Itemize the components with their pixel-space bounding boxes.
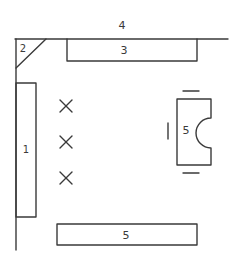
bottom-rectangle-5: 5 xyxy=(57,224,197,245)
element-label-2: 2 xyxy=(20,43,26,54)
x-mark-icon xyxy=(60,172,72,184)
corner-triangle-2: 2 xyxy=(16,39,46,68)
desk-5: 5 xyxy=(168,91,211,173)
element-label-3: 3 xyxy=(121,44,128,57)
floor-plan-diagram: 4 2 3 1 5 xyxy=(0,0,238,260)
element-label-5-bottom: 5 xyxy=(123,229,130,242)
top-rectangle-outline xyxy=(67,39,197,61)
left-rectangle-1: 1 xyxy=(16,83,36,217)
wall-label-4: 4 xyxy=(119,19,126,32)
x-markers xyxy=(60,100,72,184)
x-mark-icon xyxy=(60,136,72,148)
element-label-5-desk: 5 xyxy=(183,124,190,137)
element-label-1: 1 xyxy=(23,144,29,155)
x-mark-icon xyxy=(60,100,72,112)
top-rectangle-3: 3 xyxy=(67,39,197,61)
